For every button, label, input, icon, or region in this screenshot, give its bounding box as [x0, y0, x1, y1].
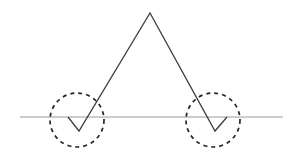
figure-container — [0, 0, 302, 165]
waveform-diagram — [0, 0, 302, 165]
figure-background — [0, 0, 302, 165]
